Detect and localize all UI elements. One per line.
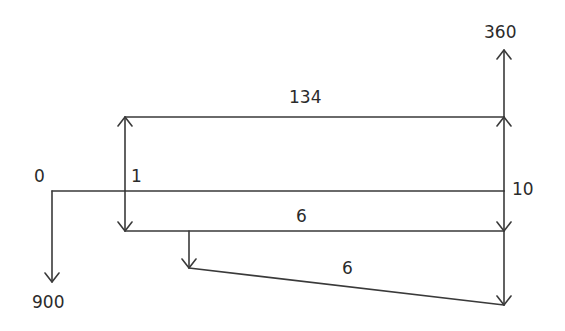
diagram-lines xyxy=(0,0,565,331)
arrow-down-6-left-icon xyxy=(118,191,132,231)
arrow-down-6-right-icon xyxy=(497,191,511,231)
arrow-up-134-right-icon xyxy=(497,117,511,191)
label-time-start: 0 xyxy=(34,168,45,185)
arrow-down-gradient-start-icon xyxy=(182,231,196,268)
label-gradient-cost: 6 xyxy=(342,260,353,277)
label-annual-inflow: 134 xyxy=(289,89,321,106)
arrow-up-360-icon xyxy=(497,50,511,117)
label-time-one: 1 xyxy=(131,168,142,185)
label-initial-outflow: 900 xyxy=(32,294,64,311)
cash-flow-diagram: 360 134 0 1 10 6 6 900 xyxy=(0,0,565,331)
arrow-up-134-left-icon xyxy=(118,117,132,191)
label-time-end: 10 xyxy=(512,181,534,198)
label-annual-cost: 6 xyxy=(296,208,307,225)
label-final-inflow: 360 xyxy=(484,24,516,41)
arrow-down-gradient-end-icon xyxy=(497,231,511,305)
arrow-down-900-icon xyxy=(45,191,59,282)
